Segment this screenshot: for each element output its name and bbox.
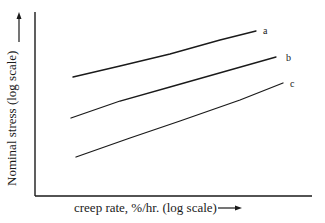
chart-canvas: abc xyxy=(0,0,325,223)
x-arrow-icon xyxy=(235,206,242,211)
series-line-b xyxy=(71,57,276,118)
series-label-b: b xyxy=(286,52,291,63)
series-labels: abc xyxy=(263,25,295,89)
series-line-c xyxy=(76,83,283,157)
x-axis-label: creep rate, %/hr. (log scale) xyxy=(74,200,217,216)
series-layer xyxy=(71,31,283,157)
series-label-a: a xyxy=(263,25,268,36)
y-axis-label: Nominal stress (log scale) xyxy=(4,11,20,186)
series-label-c: c xyxy=(290,78,295,89)
